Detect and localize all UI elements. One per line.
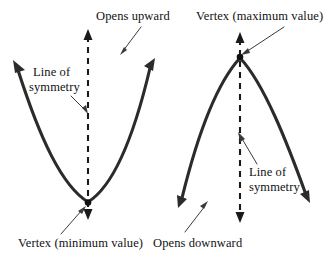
left-parabola-group [13, 29, 155, 220]
leader-lines-group [61, 27, 284, 234]
label-line-of-symmetry-left-line2: symmetry [29, 80, 80, 96]
left-vertex-point [85, 199, 92, 206]
opens-downward-leader-arrowhead [200, 201, 208, 209]
opens-downward-leader-line [185, 206, 205, 232]
right-axis-bottom-arrowhead [236, 212, 245, 223]
vertex-minimum-leader-line [61, 210, 82, 234]
right-parabola-right-arrowhead [300, 190, 310, 203]
label-opens-upward: Opens upward [96, 9, 170, 24]
right-parabola-curve [182, 58, 305, 198]
right-line-of-symmetry-leader-line [241, 137, 257, 164]
vertex-maximum-leader-line [246, 27, 284, 52]
left-axis-bottom-arrowhead [84, 209, 93, 220]
opens-upward-leader-line [123, 27, 141, 51]
label-vertex-minimum: Vertex (minimum value) [18, 236, 143, 251]
left-parabola-left-arrowhead [13, 60, 25, 73]
label-opens-downward: Opens downward [153, 236, 242, 251]
label-line-of-symmetry-right-line1: Line of [249, 165, 286, 181]
opens-upward-leader-arrowhead [120, 47, 127, 55]
vertex-maximum-leader-arrowhead [241, 48, 250, 55]
label-vertex-maximum: Vertex (maximum value) [196, 9, 323, 24]
left-axis-top-arrowhead [84, 29, 93, 40]
left-parabola-right-arrowhead [144, 58, 155, 71]
label-line-of-symmetry-right-line2: symmetry [249, 180, 300, 196]
parabola-diagram: Opens upward Vertex (maximum value) Line… [0, 0, 328, 258]
diagram-canvas [0, 0, 328, 258]
label-line-of-symmetry-left-line1: Line of [33, 65, 70, 81]
right-axis-top-arrowhead [236, 32, 245, 43]
